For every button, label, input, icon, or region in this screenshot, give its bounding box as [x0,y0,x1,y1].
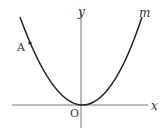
curve-label-m: m [139,6,150,20]
point-a [28,41,31,44]
parabola-diagram: A m y x O [0,0,164,131]
y-axis-label: y [77,5,85,19]
x-axis-label: x [151,99,158,113]
origin-label: O [70,107,79,120]
point-a-label: A [16,41,26,54]
